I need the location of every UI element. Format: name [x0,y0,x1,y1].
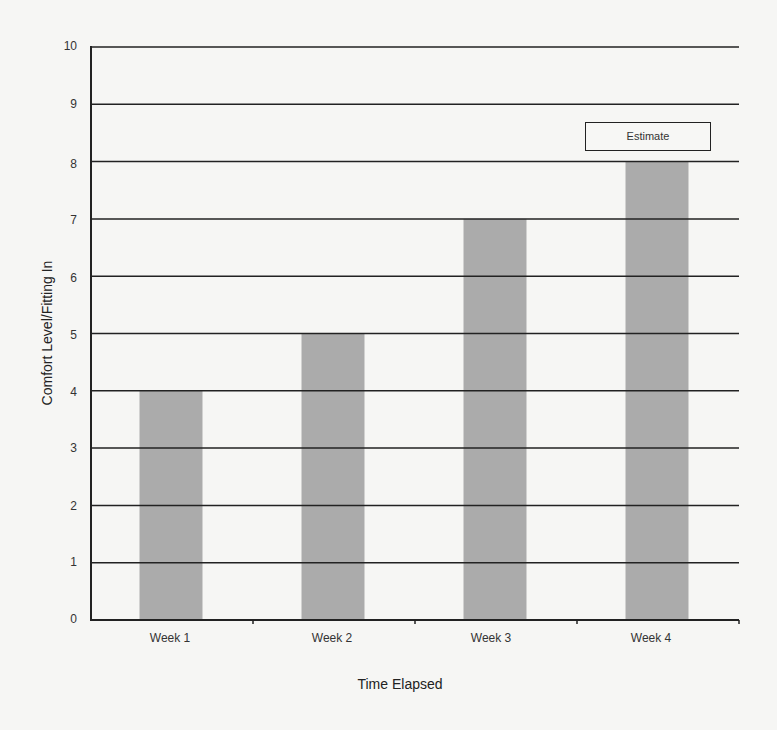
x-label-week-1: Week 1 [130,631,210,645]
x-label-week-3: Week 3 [451,631,531,645]
y-tick-0: 0 [47,612,77,626]
y-tick-9: 9 [47,97,77,111]
legend-estimate: Estimate [585,122,711,151]
y-tick-1: 1 [47,555,77,569]
y-tick-10: 10 [47,39,77,53]
bar-chart: 10 9 8 7 6 5 4 3 2 1 0 Week 1 Week 2 Wee… [0,0,777,730]
y-axis-title: Comfort Level/Fitting In [39,213,55,453]
x-label-week-2: Week 2 [292,631,372,645]
bar-week-3 [464,219,527,620]
y-tick-8: 8 [47,157,77,171]
x-label-week-4: Week 4 [611,631,691,645]
y-tick-2: 2 [47,499,77,513]
x-axis-title: Time Elapsed [300,676,500,692]
bar-week-2 [302,334,365,621]
plot-area [0,0,777,730]
